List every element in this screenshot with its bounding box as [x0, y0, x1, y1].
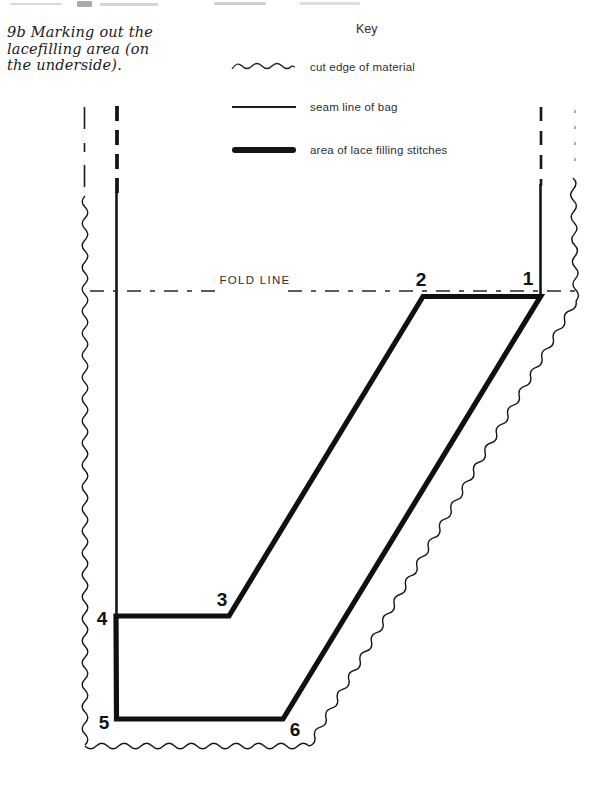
cut-edge-bottom: [85, 743, 309, 749]
bag-pattern-diagram: [0, 0, 605, 791]
corner-label-2: 2: [416, 269, 427, 291]
corner-label-5: 5: [99, 712, 110, 734]
corner-label-6: 6: [290, 719, 301, 741]
corner-label-3: 3: [217, 589, 228, 611]
lacefilling-area-outline: [116, 297, 541, 720]
corner-label-1: 1: [523, 268, 534, 290]
cut-edge-right: [571, 178, 579, 301]
corner-label-4: 4: [97, 608, 108, 630]
cut-edge-left: [82, 196, 88, 745]
cut-edge-diagonal: [309, 301, 576, 746]
figure-page: 9b Marking out the lacefilling area (on …: [0, 0, 605, 791]
fold-line-label: FOLD LINE: [219, 274, 290, 286]
